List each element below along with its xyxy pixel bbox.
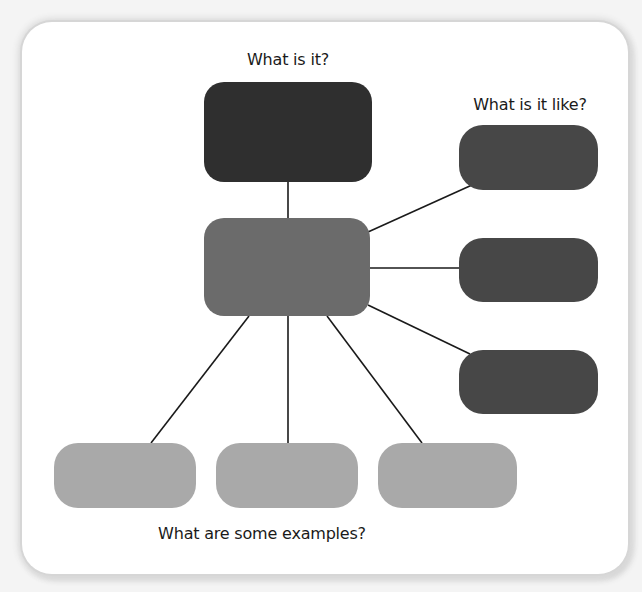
examples-question-label: What are some examples? xyxy=(158,524,366,543)
example-box-1[interactable] xyxy=(54,443,196,508)
connector-term-property-3 xyxy=(368,305,470,354)
properties-question-label: What is it like? xyxy=(473,95,587,114)
property-box-3[interactable] xyxy=(459,350,598,414)
connector-term-example-3 xyxy=(327,316,422,443)
example-box-2[interactable] xyxy=(216,443,358,508)
property-box-1[interactable] xyxy=(459,125,598,190)
connector-term-property-1 xyxy=(368,185,472,232)
property-box-2[interactable] xyxy=(459,238,598,302)
term-box[interactable] xyxy=(204,218,370,316)
example-box-3[interactable] xyxy=(378,443,517,508)
definition-box[interactable] xyxy=(204,82,372,182)
connector-term-example-1 xyxy=(151,316,249,443)
definition-question-label: What is it? xyxy=(247,50,329,69)
